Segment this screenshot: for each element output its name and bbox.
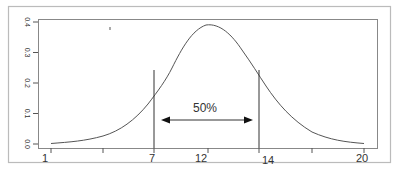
chart-canvas: 0.0 0.1 0.2 0.3 0.4 1 7 12 14 20 50%	[0, 0, 397, 172]
x-tick-labels: 1 7 12 14 20	[42, 152, 368, 166]
density-curve	[51, 25, 364, 144]
stray-marker	[109, 27, 111, 30]
x-tick-label: 14	[262, 154, 274, 166]
x-tick-label: 20	[356, 152, 368, 164]
y-axis	[33, 22, 38, 144]
x-tick-label: 7	[149, 152, 155, 164]
percent-annotation: 50%	[193, 101, 217, 115]
arrow-head-left-icon	[161, 117, 170, 124]
double-arrow-annotation	[161, 117, 253, 124]
x-tick-label: 1	[42, 152, 48, 164]
y-tick-label: 0.4	[24, 17, 31, 27]
arrow-head-right-icon	[244, 117, 253, 124]
y-tick-label: 0.0	[24, 139, 31, 149]
y-tick-label: 0.1	[24, 109, 31, 119]
y-tick-label: 0.2	[24, 78, 31, 88]
y-tick-labels: 0.0 0.1 0.2 0.3 0.4	[24, 17, 31, 149]
plot-frame	[39, 20, 378, 149]
y-tick-label: 0.3	[24, 48, 31, 58]
x-tick-label: 12	[195, 152, 207, 164]
